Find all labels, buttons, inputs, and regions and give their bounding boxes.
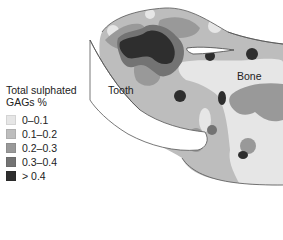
legend-item-label: > 0.4 [22, 170, 46, 182]
legend-item-label: 0.3–0.4 [22, 156, 57, 168]
legend-swatch [6, 129, 16, 139]
bone-label: Bone [237, 70, 262, 82]
legend-swatch [6, 143, 16, 153]
legend-item-label: 0.2–0.3 [22, 142, 57, 154]
legend-swatch [6, 171, 16, 181]
legend-title-line1: Total sulphated [6, 84, 106, 96]
legend-item: > 0.4 [6, 169, 106, 182]
legend-swatch [6, 157, 16, 167]
legend-item-label: 0–0.1 [22, 114, 48, 126]
legend-item: 0–0.1 [6, 113, 106, 126]
legend-item: 0.3–0.4 [6, 155, 106, 168]
legend-item: 0.2–0.3 [6, 141, 106, 154]
legend-swatch [6, 115, 16, 125]
legend: Total sulphated GAGs % 0–0.1 0.1–0.2 0.2… [6, 84, 106, 182]
legend-title-line2: GAGs % [6, 96, 106, 108]
legend-item: 0.1–0.2 [6, 127, 106, 140]
tooth-label: Tooth [108, 84, 134, 96]
legend-item-label: 0.1–0.2 [22, 128, 57, 140]
